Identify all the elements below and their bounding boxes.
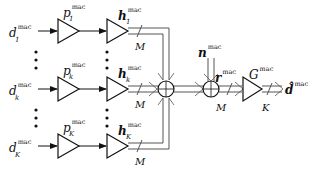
input-label-1: dmac1: [9, 27, 31, 39]
row-K: [38, 98, 169, 158]
bus-width-label-k: M: [135, 100, 145, 110]
bus-width-label-out: K: [262, 103, 269, 113]
received-label: rmac: [215, 72, 236, 84]
bus-width-label-1: M: [135, 42, 145, 52]
row-1: [38, 19, 169, 80]
equalizer-label: Gmac: [249, 69, 273, 81]
bus-width-label-r: M: [216, 103, 226, 113]
summation-node-1: [158, 73, 174, 105]
bus-width-label-K: M: [135, 157, 145, 167]
channel-label-K: hmacK: [118, 125, 141, 137]
channel-label-k: hmack: [118, 68, 141, 80]
input-label-k: dmack: [9, 85, 31, 97]
row-k: [38, 77, 158, 101]
precoder-label-K: pmacK: [63, 122, 85, 134]
precoder-label-k: pmack: [63, 65, 85, 77]
precoder-label-1: pmac1: [63, 7, 85, 19]
channel-label-1: hmac1: [118, 10, 141, 22]
noise-label: nmac: [198, 47, 221, 59]
output-label: d̂mac: [285, 84, 308, 96]
input-label-K: dmacK: [9, 142, 31, 154]
block-diagram-canvas: [0, 0, 319, 176]
